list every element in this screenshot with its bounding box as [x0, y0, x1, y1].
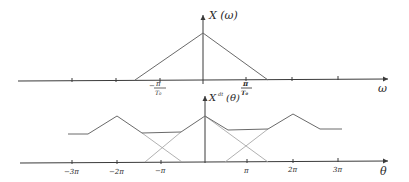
- svg-text:T₀: T₀: [155, 89, 162, 96]
- svg-text:(θ): (θ): [226, 92, 240, 103]
- bottom-y-label: X dt (θ): [208, 91, 240, 103]
- svg-text:π: π: [155, 80, 161, 88]
- svg-text:2π: 2π: [287, 166, 297, 174]
- svg-text:dt: dt: [218, 91, 224, 97]
- svg-text:X: X: [208, 92, 217, 103]
- svg-text:T₀: T₀: [241, 89, 248, 96]
- svg-text:−2π: −2π: [109, 168, 124, 176]
- bottom-x-axis: [20, 161, 388, 163]
- svg-text:π: π: [242, 79, 249, 88]
- tick-label-neg-pi-over-T0: − π T₀: [149, 80, 166, 96]
- aliasing-diagram: X (ω) ω − π T₀ π T₀: [0, 0, 409, 182]
- bottom-x-label: θ: [380, 165, 387, 178]
- svg-text:π: π: [243, 167, 249, 175]
- top-y-label: X (ω): [208, 9, 238, 22]
- bottom-tick-labels: −3π −2π −π π 2π 3π: [64, 166, 342, 176]
- svg-text:3π: 3π: [333, 166, 342, 174]
- spectrum-triangle: [135, 33, 268, 80]
- svg-text:−π: −π: [155, 167, 166, 175]
- tick-label-pos-pi-over-T0: π T₀: [241, 79, 252, 96]
- svg-text:−3π: −3π: [64, 168, 79, 176]
- top-plot: X (ω) ω − π T₀ π T₀: [18, 9, 388, 96]
- bottom-plot: X dt (θ) θ −3π −2π −π π 2π 3π: [20, 91, 388, 178]
- top-x-label: ω: [378, 82, 387, 95]
